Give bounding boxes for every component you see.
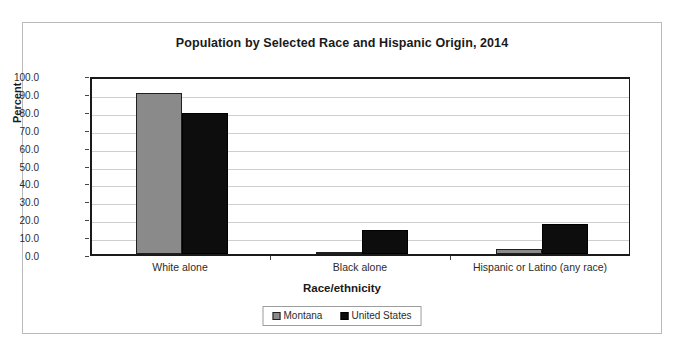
y-axis-tick-label: 50.0 <box>0 161 39 172</box>
y-axis-tick-mark <box>85 238 89 239</box>
y-axis-tick-label: 100.0 <box>0 72 39 83</box>
y-axis-tick-mark <box>85 149 89 150</box>
bar-united-states <box>362 230 408 254</box>
y-axis-tick-label: 90.0 <box>0 89 39 100</box>
y-axis-tick-label: 30.0 <box>0 197 39 208</box>
chart-legend: MontanaUnited States <box>263 306 422 326</box>
y-axis-tick-label: 10.0 <box>0 233 39 244</box>
legend-label: Montana <box>284 310 323 321</box>
legend-item-montana: Montana <box>273 310 323 321</box>
chart-title: Population by Selected Race and Hispanic… <box>23 36 661 50</box>
legend-label: United States <box>351 310 411 321</box>
legend-swatch-icon <box>273 312 281 320</box>
legend-item-united-states: United States <box>340 310 411 321</box>
x-axis-tick-label: White alone <box>152 261 207 273</box>
legend-swatch-icon <box>340 312 348 320</box>
y-axis-tick-mark <box>85 220 89 221</box>
y-axis-tick-mark <box>85 131 89 132</box>
x-axis-tick-label: Black alone <box>333 261 387 273</box>
y-axis-tick-mark <box>85 184 89 185</box>
y-axis-tick-label: 80.0 <box>0 107 39 118</box>
x-axis-tick-mark <box>270 256 271 260</box>
y-axis-tick-mark <box>85 202 89 203</box>
y-axis-tick-mark <box>85 95 89 96</box>
x-axis-tick-mark <box>450 256 451 260</box>
bar-montana <box>496 249 542 254</box>
x-axis-title: Race/ethnicity <box>23 282 661 294</box>
x-axis-tick-label: Hispanic or Latino (any race) <box>473 261 607 273</box>
bar-montana <box>136 93 182 254</box>
y-axis-tick-label: 20.0 <box>0 215 39 226</box>
chart-container: Population by Selected Race and Hispanic… <box>22 22 662 334</box>
plot-area <box>90 77 630 256</box>
y-axis-tick-label: 40.0 <box>0 179 39 190</box>
bar-montana <box>316 252 362 254</box>
y-axis-tick-mark <box>85 113 89 114</box>
y-axis-tick-label: 0.0 <box>0 251 39 262</box>
y-axis-tick-label: 60.0 <box>0 143 39 154</box>
y-axis-tick-mark <box>85 167 89 168</box>
bar-united-states <box>542 224 588 254</box>
bar-united-states <box>182 113 228 254</box>
y-axis-tick-mark <box>85 256 89 257</box>
y-axis-tick-label: 70.0 <box>0 125 39 136</box>
y-axis-tick-mark <box>85 77 89 78</box>
